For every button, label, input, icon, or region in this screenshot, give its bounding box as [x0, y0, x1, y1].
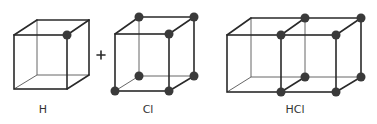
label-cl: Cl [143, 103, 154, 116]
atom-hcl [357, 14, 366, 23]
label-hcl: HCl [285, 103, 304, 116]
atom-cl [190, 72, 199, 81]
atom-cl [135, 72, 144, 81]
atom-hcl [301, 14, 310, 23]
atom-hcl [277, 88, 286, 97]
atom-cl [165, 30, 174, 39]
reaction-diagram [0, 0, 377, 124]
atom-h [63, 31, 72, 40]
atom-hcl [332, 88, 341, 97]
cube-h [14, 20, 89, 89]
cube-hcl [227, 14, 366, 97]
cube-cl [111, 13, 199, 96]
atom-cl [190, 13, 199, 22]
atom-hcl [357, 73, 366, 82]
atom-cl [135, 13, 144, 22]
atom-hcl [301, 73, 310, 82]
plus-icon [97, 51, 105, 59]
label-h: H [39, 103, 47, 116]
atom-cl [111, 87, 120, 96]
atom-cl [165, 87, 174, 96]
atom-hcl [332, 31, 341, 40]
atom-hcl [277, 31, 286, 40]
